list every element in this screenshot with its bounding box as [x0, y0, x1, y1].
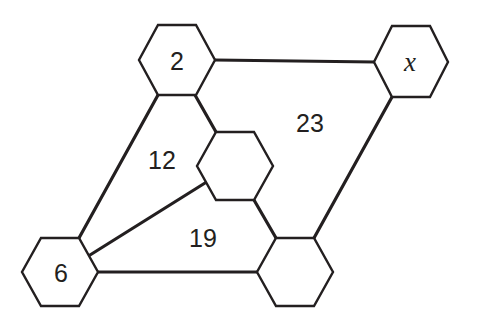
edge-middle-to-bottom-right — [254, 200, 276, 238]
edge-x-to-bottom-right — [314, 97, 392, 238]
nodes — [22, 25, 448, 306]
edge-2-to-6 — [79, 95, 158, 238]
region-label-12: 12 — [148, 148, 176, 173]
hexagon-node-middle — [197, 132, 273, 200]
edge-2-to-middle — [195, 95, 216, 132]
edge-2-to-x — [215, 60, 375, 62]
hexagon-node-bottom-right — [257, 238, 333, 306]
region-label-23: 23 — [296, 111, 324, 136]
region-label-19: 19 — [189, 226, 217, 251]
node-label-x: x — [404, 49, 416, 76]
edge-middle-to-6 — [90, 183, 205, 255]
node-label-6: 6 — [54, 261, 68, 286]
node-label-2: 2 — [170, 49, 184, 74]
